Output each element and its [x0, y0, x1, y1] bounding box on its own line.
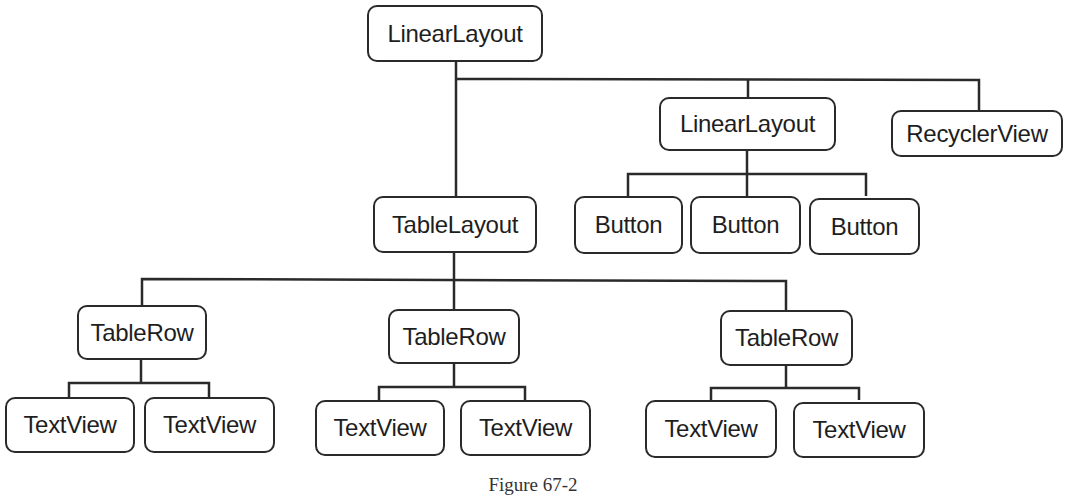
node-tablerow-3: TableRow — [720, 310, 853, 366]
node-textview-3: TextView — [315, 400, 445, 456]
diagram-canvas: LinearLayout LinearLayout RecyclerView B… — [0, 0, 1066, 503]
node-button-3: Button — [809, 198, 920, 255]
node-tablelayout: TableLayout — [373, 196, 537, 253]
node-textview-2: TextView — [144, 397, 275, 453]
node-textview-5: TextView — [645, 400, 777, 458]
node-button-2: Button — [690, 196, 801, 254]
node-linearlayout-child: LinearLayout — [659, 97, 836, 151]
edge-table-rows — [142, 279, 786, 310]
node-recyclerview: RecyclerView — [891, 110, 1063, 157]
edge-row1-textviews — [69, 383, 209, 397]
node-button-1: Button — [574, 196, 683, 254]
edge-row2-textviews — [379, 387, 525, 400]
node-tablerow-2: TableRow — [388, 309, 520, 364]
figure-caption: Figure 67-2 — [0, 474, 1066, 496]
node-root-linearlayout: LinearLayout — [367, 5, 543, 62]
node-textview-6: TextView — [793, 402, 925, 458]
node-textview-4: TextView — [460, 400, 591, 456]
node-tablerow-1: TableRow — [77, 305, 207, 360]
node-textview-1: TextView — [5, 397, 135, 453]
edge-row3-textviews — [711, 388, 859, 400]
